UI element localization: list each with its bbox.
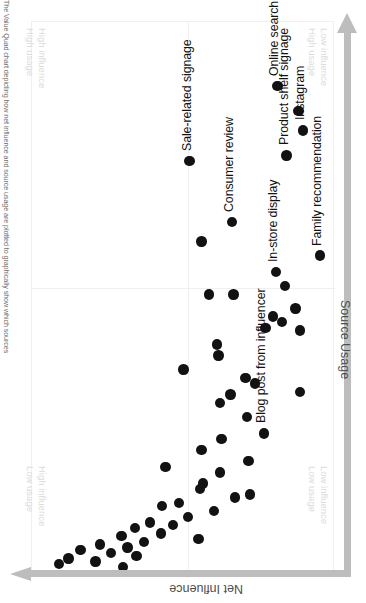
scatter-point: [195, 484, 205, 494]
scatter-point: [95, 539, 105, 549]
scatter-point-label: Instagram: [293, 66, 307, 120]
scatter-point: [230, 492, 240, 502]
quadrant-line-1: Low influence: [319, 466, 331, 524]
scatter-point: [215, 398, 225, 408]
scatter-point: [196, 445, 206, 455]
scatter-point-label: In-store display: [266, 180, 280, 262]
x-axis-title: Net Influence: [169, 582, 243, 596]
scatter-point: [228, 289, 238, 299]
scatter-point: [183, 512, 193, 522]
net-influence-axis-arrowhead-icon: [10, 567, 31, 581]
scatter-point-label: Consumer review: [222, 117, 236, 212]
scatter-point: [216, 434, 226, 444]
scatter-point: [122, 542, 132, 552]
scatter-point: [315, 250, 325, 260]
scatter-point: [145, 517, 155, 527]
scatter-point: [63, 553, 73, 563]
scatter-point: [215, 467, 225, 477]
scatter-point: [259, 428, 269, 438]
scatter-point: [245, 489, 255, 499]
scatter-point: [225, 389, 235, 399]
scatter-point: [90, 556, 100, 566]
scatter-point: [156, 528, 166, 538]
scatter-point: [178, 364, 188, 374]
net-influence-axis-arrow-shaft: [31, 570, 351, 577]
quadrant-label-high-influence-high-usage: High influence High usage: [25, 28, 48, 88]
source-usage-axis-arrowhead-icon: [337, 13, 357, 33]
scatter-point: [130, 523, 140, 533]
y-axis-title: Source Usage: [338, 300, 352, 379]
quadrant-line-2: Low usage: [25, 466, 37, 526]
quadrant-line-2: Low usage: [307, 466, 319, 524]
quadrant-line-1: High influence: [37, 28, 49, 88]
scatter-point: [106, 548, 116, 558]
scatter-point: [281, 150, 291, 160]
scatter-point: [184, 156, 194, 166]
quadrant-line-2: High usage: [25, 28, 37, 88]
scatter-point: [242, 412, 252, 422]
scatter-point-label: Sale-related signage: [180, 39, 194, 151]
scatter-point-label: Blog post from influencer: [254, 289, 268, 424]
scatter-point: [212, 339, 222, 349]
scatter-point: [139, 537, 149, 547]
scatter-point: [204, 289, 214, 299]
scatter-point: [174, 498, 184, 508]
figure-caption: The Value Quad chart depicting how net i…: [0, 0, 13, 603]
scatter-point-label: Family recommendation: [310, 115, 324, 245]
scatter-point: [196, 236, 206, 246]
scatter-point: [213, 350, 223, 360]
scatter-point: [227, 217, 237, 227]
quadrant-label-low-influence-high-usage: Low influence High usage: [307, 28, 330, 86]
scatter-point: [75, 545, 85, 555]
scatter-point-label: Product shelf signage: [277, 28, 291, 145]
scatter-point: [277, 317, 287, 327]
quadrant-line-1: High influence: [37, 466, 49, 526]
quadrant-label-low-influence-low-usage: Low influence Low usage: [307, 466, 330, 524]
scatter-point: [116, 531, 126, 541]
scatter-point: [295, 387, 305, 397]
quadrant-divider-horizontal: [32, 288, 335, 289]
scatter-point: [243, 456, 253, 466]
scatter-point: [131, 551, 141, 561]
scatter-point: [168, 520, 178, 530]
quadrant-line-2: High usage: [307, 28, 319, 86]
scatter-point: [209, 506, 219, 516]
scatter-point: [160, 462, 170, 472]
quadrant-line-1: Low influence: [319, 28, 331, 86]
scatter-point: [271, 267, 281, 277]
scatter-point: [193, 534, 203, 544]
scatter-point: [54, 559, 64, 569]
quadrant-label-high-influence-low-usage: High influence Low usage: [25, 466, 48, 526]
scatter-point: [298, 125, 308, 135]
scatter-point: [280, 281, 290, 291]
scatter-point: [157, 501, 167, 511]
scatter-point: [290, 303, 300, 313]
scatter-point: [295, 325, 305, 335]
